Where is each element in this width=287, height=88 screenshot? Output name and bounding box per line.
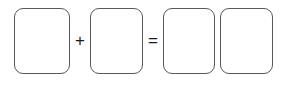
plus-sign-icon: +	[71, 31, 89, 49]
answer-box-sum-tens[interactable]	[163, 8, 215, 74]
answer-box-addend-1[interactable]	[14, 8, 70, 74]
answer-box-addend-2[interactable]	[90, 8, 143, 74]
answer-box-sum-ones[interactable]	[220, 8, 273, 74]
equals-sign-icon: =	[144, 31, 162, 49]
equation-diagram: + =	[0, 0, 287, 88]
